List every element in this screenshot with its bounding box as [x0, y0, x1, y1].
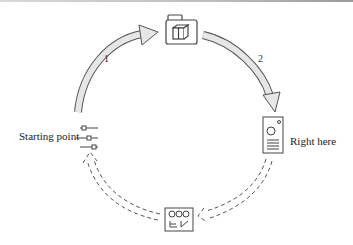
starting-point-label: Starting point [19, 130, 79, 142]
device-speaker-icon [263, 117, 283, 153]
folder-box-icon [166, 15, 197, 44]
arrow-4-dashed [83, 152, 160, 220]
sliders-icon [76, 126, 98, 149]
cycle-diagram [0, 0, 353, 245]
arrow-2 [203, 35, 280, 112]
arrow-1 [78, 25, 158, 112]
edge-label-1: 1 [104, 53, 109, 64]
arrow-3-dashed [198, 159, 272, 222]
edge-label-2: 2 [258, 53, 263, 64]
control-panel-icon [165, 208, 193, 231]
right-here-label: Right here [290, 135, 336, 147]
